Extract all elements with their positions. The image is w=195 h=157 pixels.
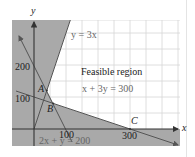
x-tick-300: 300 bbox=[122, 131, 137, 141]
x-axis-label: x bbox=[182, 123, 186, 133]
vertex-label-c: C bbox=[131, 116, 138, 126]
vertex-label-a: A bbox=[38, 84, 44, 94]
x-tick-100: 100 bbox=[59, 130, 74, 140]
page-edge bbox=[186, 0, 187, 157]
feasible-region-chart bbox=[0, 0, 195, 157]
y-axis-label: y bbox=[31, 6, 35, 16]
label-x-plus-3y-300: x + 3y = 300 bbox=[82, 84, 133, 94]
vertex-a bbox=[46, 90, 48, 92]
y-tick-100: 100 bbox=[15, 94, 30, 104]
vertex-label-b: B bbox=[47, 104, 53, 114]
label-y-equals-3x: y = 3x bbox=[71, 30, 97, 40]
y-tick-200: 200 bbox=[15, 62, 30, 72]
label-feasible-region: Feasible region bbox=[81, 67, 142, 77]
